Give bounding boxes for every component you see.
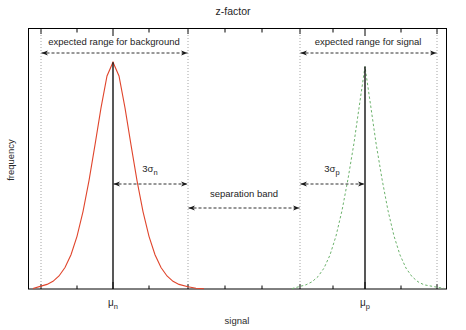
- three-sigma-p-base: 3σ: [324, 163, 335, 174]
- expected-range-signal-label: expected range for signal: [315, 36, 422, 47]
- chart-title: z-factor: [215, 5, 251, 17]
- three-sigma-n-base: 3σ: [142, 163, 153, 174]
- xtick-mu-p-subscript: p: [366, 302, 370, 311]
- x-axis-label: signal: [225, 315, 250, 326]
- chart-canvas: z-factor: [0, 0, 466, 330]
- xtick-mu-n-subscript: n: [114, 302, 118, 311]
- z-factor-figure: z-factor: [0, 0, 466, 330]
- y-axis-label: frequency: [5, 139, 16, 181]
- three-sigma-n-subscript: n: [153, 168, 157, 177]
- figure-background: [0, 0, 466, 330]
- separation-band-label: separation band: [210, 188, 278, 199]
- expected-range-background-label: expected range for background: [48, 36, 180, 47]
- three-sigma-p-subscript: p: [335, 168, 339, 177]
